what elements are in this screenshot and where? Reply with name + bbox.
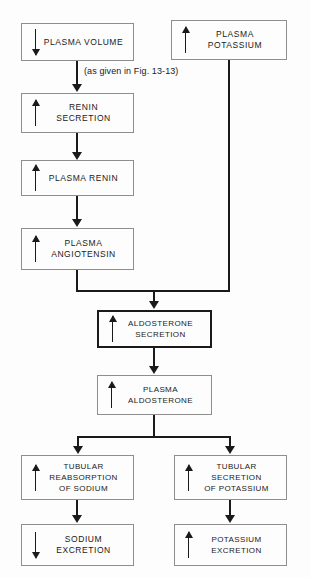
node-aldosterone-secretion-content: ALDOSTERONE SECRETION	[99, 316, 210, 342]
node-renin-secretion-label: RENIN SECRETION	[40, 102, 133, 124]
up-arrow-icon	[31, 100, 40, 126]
node-plasma-angiotensin-label: PLASMA ANGIOTENSIN	[40, 238, 133, 260]
node-aldosterone-secretion[interactable]: ALDOSTERONE SECRETION	[97, 310, 212, 348]
fig-reference-note: (as given in Fig. 13-13)	[84, 66, 178, 76]
node-plasma-angiotensin-content: PLASMA ANGIOTENSIN	[22, 236, 133, 262]
connector-volume-to-renin-arrowhead	[72, 84, 82, 92]
node-tubular-reabsorption-sodium-content: TUBULAR REABSORPTION OF SODIUM	[22, 461, 133, 494]
node-aldosterone-secretion-label: ALDOSTERONE SECRETION	[117, 318, 210, 340]
node-plasma-volume[interactable]: PLASMA VOLUME	[21, 23, 134, 61]
connector-volume-to-renin	[76, 61, 78, 85]
node-plasma-renin-content: PLASMA RENIN	[22, 165, 133, 191]
up-arrow-icon	[184, 465, 193, 491]
up-arrow-icon	[31, 465, 40, 491]
connector-renin-to-plasma-renin-arrowhead	[72, 152, 82, 160]
down-arrow-icon	[31, 29, 40, 55]
node-tubular-secretion-potassium[interactable]: TUBULAR SECRETION OF POTASSIUM	[174, 455, 287, 500]
connector-renin-to-plasma-renin	[76, 133, 78, 153]
up-arrow-icon	[31, 236, 40, 262]
node-renin-secretion-content: RENIN SECRETION	[22, 100, 133, 126]
node-sodium-excretion[interactable]: SODIUM EXCRETION	[21, 524, 134, 566]
node-plasma-potassium-content: PLASMA POTASSIUM	[172, 27, 286, 53]
node-plasma-angiotensin[interactable]: PLASMA ANGIOTENSIN	[21, 228, 134, 270]
node-plasma-potassium-label: PLASMA POTASSIUM	[190, 29, 286, 51]
node-plasma-potassium[interactable]: PLASMA POTASSIUM	[171, 20, 287, 60]
node-sodium-excretion-content: SODIUM EXCRETION	[22, 532, 133, 558]
up-arrow-icon	[107, 382, 116, 408]
connector-aldo-secretion-to-plasma-aldo-arrowhead	[149, 366, 159, 374]
split-branch-left-arrowhead	[73, 446, 83, 454]
connector-reabsorption-to-sodium-excretion	[76, 500, 78, 516]
node-plasma-renin[interactable]: PLASMA RENIN	[21, 160, 134, 196]
node-plasma-aldosterone-label: PLASMA ALDOSTERONE	[116, 384, 211, 406]
split-bar-to-tubular-nodes	[77, 436, 231, 438]
connector-potassium-to-aldosterone	[228, 60, 230, 292]
up-arrow-icon	[31, 165, 40, 191]
up-arrow-icon	[108, 316, 117, 342]
node-plasma-aldosterone[interactable]: PLASMA ALDOSTERONE	[97, 375, 212, 415]
node-plasma-volume-label: PLASMA VOLUME	[40, 37, 133, 48]
connector-secretion-to-potassium-excretion	[229, 500, 231, 516]
node-tubular-secretion-potassium-content: TUBULAR SECRETION OF POTASSIUM	[175, 461, 286, 494]
node-plasma-renin-label: PLASMA RENIN	[40, 173, 133, 184]
flowchart-canvas: PLASMA VOLUME PLASMA POTASSIUM (as given…	[0, 0, 310, 577]
split-stem-from-plasma-aldosterone	[153, 415, 155, 437]
node-plasma-volume-content: PLASMA VOLUME	[22, 29, 133, 55]
connector-angiotensin-to-merge	[76, 270, 78, 292]
connector-aldo-secretion-to-plasma-aldo	[153, 348, 155, 367]
split-branch-right-arrowhead	[225, 446, 235, 454]
down-arrow-icon	[31, 532, 40, 558]
node-tubular-reabsorption-sodium-label: TUBULAR REABSORPTION OF SODIUM	[40, 461, 133, 494]
node-tubular-secretion-potassium-label: TUBULAR SECRETION OF POTASSIUM	[193, 461, 286, 494]
node-potassium-excretion-content: POTASSIUM EXCRETION	[175, 532, 286, 558]
connector-plasma-renin-to-angiotensin-arrowhead	[72, 219, 82, 227]
connector-merge-to-aldosterone-secretion-arrowhead	[149, 301, 159, 309]
up-arrow-icon	[181, 27, 190, 53]
node-sodium-excretion-label: SODIUM EXCRETION	[40, 534, 133, 556]
node-tubular-reabsorption-sodium[interactable]: TUBULAR REABSORPTION OF SODIUM	[21, 455, 134, 500]
connector-plasma-renin-to-angiotensin	[76, 196, 78, 220]
node-potassium-excretion-label: POTASSIUM EXCRETION	[193, 534, 286, 556]
connector-reabsorption-to-sodium-excretion-arrowhead	[72, 515, 82, 523]
node-plasma-aldosterone-content: PLASMA ALDOSTERONE	[98, 382, 211, 408]
node-potassium-excretion[interactable]: POTASSIUM EXCRETION	[174, 524, 287, 566]
connector-secretion-to-potassium-excretion-arrowhead	[225, 515, 235, 523]
up-arrow-icon	[184, 532, 193, 558]
node-renin-secretion[interactable]: RENIN SECRETION	[21, 93, 134, 133]
